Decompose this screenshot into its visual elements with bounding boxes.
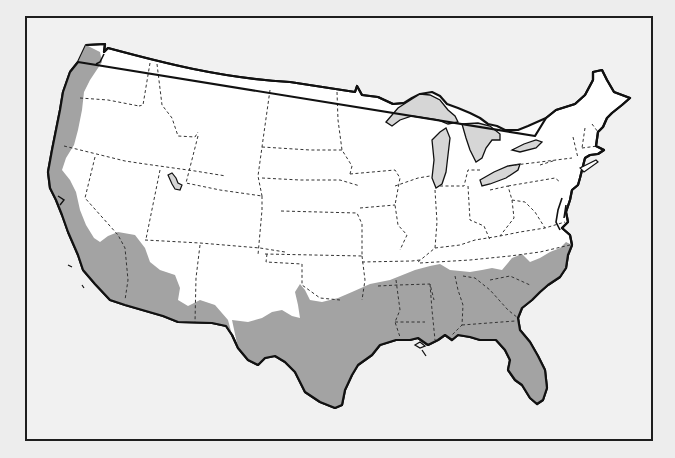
us-map [0,0,675,458]
mississippi-delta [415,342,426,356]
